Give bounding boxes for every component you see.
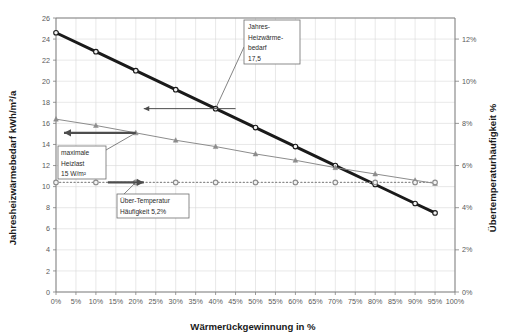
x-tick-label: 15% bbox=[109, 297, 124, 306]
data-point-marker bbox=[253, 180, 258, 185]
y-tick-label: 14 bbox=[42, 140, 50, 149]
x-tick-label: 85% bbox=[388, 297, 403, 306]
x-tick-label: 25% bbox=[149, 297, 164, 306]
data-point-marker bbox=[213, 180, 218, 185]
y-tick-label: 4 bbox=[46, 245, 50, 254]
data-point-marker bbox=[433, 211, 438, 216]
annotation-line: 17,5 bbox=[248, 55, 261, 62]
y-tick-label: 18 bbox=[42, 98, 50, 107]
x-tick-label: 65% bbox=[308, 297, 323, 306]
y2-tick-label: 4% bbox=[462, 203, 473, 212]
data-point-marker bbox=[293, 180, 298, 185]
y-tick-label: 26 bbox=[42, 14, 50, 23]
annotation-line: bedarf bbox=[248, 44, 267, 51]
y2-tick-label: 0% bbox=[462, 288, 473, 297]
x-tick-label: 50% bbox=[248, 297, 263, 306]
data-point-marker bbox=[293, 144, 298, 149]
x-tick-label: 75% bbox=[348, 297, 363, 306]
y-axis-title: Jahresheizwärmebedarf kWh/m²/a bbox=[7, 90, 18, 245]
x-tick-label: 55% bbox=[268, 297, 283, 306]
x-tick-label: 20% bbox=[129, 297, 144, 306]
x-axis-title: Wärmerückgewinnung in % bbox=[190, 321, 316, 332]
y-tick-label: 6 bbox=[46, 224, 50, 233]
data-point-marker bbox=[54, 30, 59, 35]
annotation-maximale-heizlast: maximaleHeizlast15 W/m² bbox=[58, 146, 106, 179]
data-point-marker bbox=[333, 180, 338, 185]
annotation-line: Heizwärme- bbox=[248, 34, 283, 41]
y-tick-label: 0 bbox=[46, 288, 50, 297]
annotation-ueber-temperatur: Über-TemperaturHäufigkeit 5,2% bbox=[117, 194, 189, 218]
x-tick-label: 95% bbox=[428, 297, 443, 306]
line-chart: 0%5%10%15%20%25%30%35%40%45%50%55%60%65%… bbox=[0, 0, 506, 336]
y2-axis-title: Übertemperaturhäufigkeit % bbox=[487, 103, 498, 232]
annotation-line: Heizlast bbox=[61, 160, 85, 167]
y-tick-label: 20 bbox=[42, 77, 50, 86]
data-point-marker bbox=[253, 125, 258, 130]
data-point-marker bbox=[54, 180, 59, 185]
x-tick-label: 5% bbox=[71, 297, 82, 306]
x-axis-ticks bbox=[56, 292, 455, 295]
annotation-line: maximale bbox=[61, 149, 90, 156]
y-tick-label: 12 bbox=[42, 161, 50, 170]
x-tick-label: 35% bbox=[188, 297, 203, 306]
x-tick-label: 30% bbox=[169, 297, 184, 306]
y-tick-label: 22 bbox=[42, 56, 50, 65]
annotation-line: Häufigkeit 5,2% bbox=[120, 208, 166, 216]
x-tick-label: 10% bbox=[89, 297, 104, 306]
y-tick-label: 24 bbox=[42, 35, 50, 44]
x-tick-label: 45% bbox=[228, 297, 243, 306]
y-tick-label: 8 bbox=[46, 203, 50, 212]
y2-tick-label: 12% bbox=[462, 35, 477, 44]
data-point-marker bbox=[94, 180, 99, 185]
data-point-marker bbox=[94, 49, 99, 54]
x-tick-label: 80% bbox=[368, 297, 383, 306]
y2-tick-label: 10% bbox=[462, 77, 477, 86]
data-point-marker bbox=[173, 180, 178, 185]
y-tick-label: 16 bbox=[42, 119, 50, 128]
y2-tick-label: 2% bbox=[462, 245, 473, 254]
x-tick-label: 100% bbox=[446, 297, 465, 306]
data-point-marker bbox=[413, 201, 418, 206]
y-tick-label: 2 bbox=[46, 267, 50, 276]
data-point-marker bbox=[413, 180, 418, 185]
annotation-line: Über-Temperatur bbox=[120, 197, 171, 205]
chart-container: 0%5%10%15%20%25%30%35%40%45%50%55%60%65%… bbox=[0, 0, 506, 336]
y-tick-label: 10 bbox=[42, 182, 50, 191]
data-point-marker bbox=[134, 68, 139, 73]
data-point-marker bbox=[433, 180, 438, 185]
data-point-marker bbox=[173, 87, 178, 92]
y2-tick-label: 8% bbox=[462, 119, 473, 128]
y2-tick-label: 6% bbox=[462, 161, 473, 170]
annotation-line: Jahres- bbox=[248, 23, 270, 30]
x-tick-label: 0% bbox=[51, 297, 62, 306]
data-point-marker bbox=[373, 180, 378, 185]
x-tick-label: 70% bbox=[328, 297, 343, 306]
annotation-line: 15 W/m² bbox=[61, 170, 87, 177]
annotation-jahres-heizwaermebedarf: Jahres-Heizwärme-bedarf17,5 bbox=[244, 20, 300, 64]
x-tick-label: 90% bbox=[408, 297, 423, 306]
x-tick-label: 40% bbox=[208, 297, 223, 306]
x-tick-label: 60% bbox=[288, 297, 303, 306]
